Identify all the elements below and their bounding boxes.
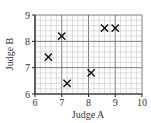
scatter-chart: 678910 6789 Judge A Judge B — [0, 0, 151, 123]
y-tick-label: 8 — [25, 36, 30, 47]
data-points — [45, 25, 119, 88]
x-axis-label: Judge A — [72, 109, 105, 120]
y-tick-label: 9 — [25, 10, 30, 21]
x-tick-label: 7 — [59, 97, 64, 108]
x-tick-label: 9 — [113, 97, 118, 108]
x-tick-label: 6 — [33, 97, 38, 108]
y-axis-label: Judge B — [4, 37, 15, 70]
x-tick-label: 8 — [86, 97, 91, 108]
x-tick-labels: 678910 — [33, 94, 148, 108]
y-tick-labels: 6789 — [25, 10, 35, 100]
y-tick-label: 6 — [25, 89, 30, 100]
x-tick-label: 10 — [137, 97, 147, 108]
y-tick-label: 7 — [25, 62, 30, 73]
